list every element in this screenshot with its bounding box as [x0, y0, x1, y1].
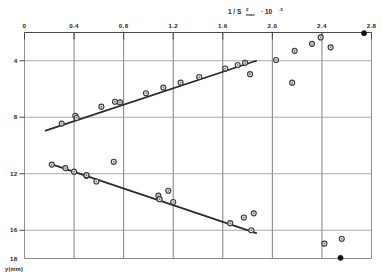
- data-point-filled: [338, 255, 343, 260]
- data-point-core: [311, 43, 313, 45]
- x-axis-title-power: -5: [279, 7, 283, 12]
- data-point-core: [162, 87, 164, 89]
- data-point-core: [320, 37, 322, 39]
- data-point-core: [250, 229, 252, 231]
- y-tick-label: 4: [14, 57, 18, 64]
- x-tick-label: 0: [23, 22, 27, 29]
- y-tick-label: 16: [10, 226, 18, 233]
- data-point-core: [96, 181, 98, 183]
- chart-figure: 00.40.81.21.62.02.42.8 48121618 1 / S 2 …: [0, 0, 383, 275]
- data-point-core: [224, 68, 226, 70]
- x-axis-title-middle: · 10: [261, 8, 272, 15]
- y-axis-title: y(mm): [5, 266, 23, 272]
- data-point-core: [114, 101, 116, 103]
- data-point-core: [73, 171, 75, 173]
- x-tick-label: 2.4: [317, 22, 327, 29]
- data-point-core: [244, 62, 246, 64]
- data-point-core: [198, 76, 200, 78]
- data-point-filled: [361, 31, 366, 36]
- data-point-core: [113, 161, 115, 163]
- x-tick-label: 1.6: [218, 22, 228, 29]
- x-tick-label: 2.8: [367, 22, 377, 29]
- data-point-core: [341, 238, 343, 240]
- data-point-core: [76, 117, 78, 119]
- data-point-core: [159, 198, 161, 200]
- data-point-core: [294, 50, 296, 52]
- data-point-core: [237, 64, 239, 66]
- y-tick-label: 12: [10, 170, 18, 177]
- data-point-core: [324, 243, 326, 245]
- data-point-core: [100, 106, 102, 108]
- data-point-core: [167, 190, 169, 192]
- data-point-core: [275, 59, 277, 61]
- data-point-core: [65, 167, 67, 169]
- data-point-core: [291, 82, 293, 84]
- data-point-core: [253, 212, 255, 214]
- data-point-core: [61, 123, 63, 125]
- data-point-core: [330, 46, 332, 48]
- y-tick-label: 8: [14, 113, 18, 120]
- data-point-core: [243, 217, 245, 219]
- data-point-core: [51, 164, 53, 166]
- figure-background: [0, 0, 383, 275]
- data-point-core: [180, 82, 182, 84]
- x-tick-label: 0.8: [119, 22, 129, 29]
- x-axis-title-prefix: 1 / S: [228, 8, 242, 15]
- x-tick-label: 1.2: [168, 22, 178, 29]
- data-point-core: [86, 174, 88, 176]
- scatter-plot: 00.40.81.21.62.02.42.8 48121618 1 / S 2 …: [0, 0, 383, 275]
- y-tick-label: 18: [10, 255, 18, 262]
- x-tick-label: 0.4: [69, 22, 79, 29]
- data-point-core: [229, 222, 231, 224]
- data-point-core: [145, 92, 147, 94]
- data-point-core: [172, 201, 174, 203]
- x-axis-title-subscript: max: [246, 12, 255, 17]
- data-point-core: [249, 73, 251, 75]
- data-point-core: [119, 102, 121, 104]
- x-tick-label: 2.0: [268, 22, 278, 29]
